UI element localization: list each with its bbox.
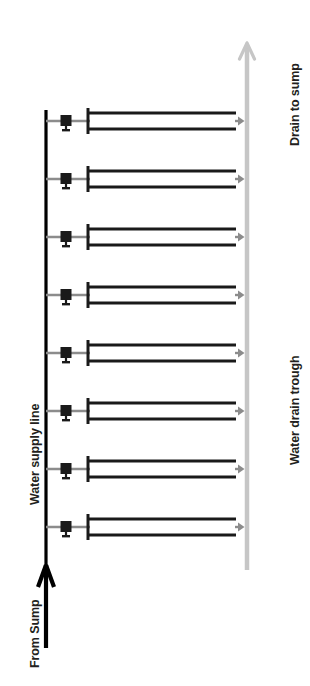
label-water-supply-line: Water supply line	[29, 404, 42, 505]
valve-body-2[interactable]	[61, 173, 72, 184]
piping-diagram-canvas	[0, 0, 310, 686]
branch-discharge-arrow-icon-6	[238, 407, 245, 416]
valve-body-3[interactable]	[61, 231, 72, 242]
branch-5	[46, 340, 245, 366]
branch-1	[46, 108, 245, 134]
branch-4	[46, 282, 245, 308]
branch-discharge-arrow-icon-8	[238, 523, 245, 532]
label-drain-to-sump: Drain to sump	[289, 63, 302, 146]
branch-2	[46, 166, 245, 192]
valve-body-5[interactable]	[61, 347, 72, 358]
piping-diagram: Drain to sump Water drain trough Water s…	[0, 0, 310, 686]
branch-6	[46, 398, 245, 424]
label-from-sump: From Sump	[29, 599, 42, 668]
valve-body-1[interactable]	[61, 115, 72, 126]
branch-discharge-arrow-icon-1	[238, 117, 245, 126]
branch-discharge-arrow-icon-3	[238, 233, 245, 242]
branch-discharge-arrow-icon-7	[238, 465, 245, 474]
valve-body-7[interactable]	[61, 463, 72, 474]
branch-discharge-arrow-icon-2	[238, 175, 245, 184]
branch-3	[46, 224, 245, 250]
valve-body-6[interactable]	[61, 405, 72, 416]
valve-body-8[interactable]	[61, 521, 72, 532]
label-water-drain-trough: Water drain trough	[289, 355, 302, 465]
branch-discharge-arrow-icon-5	[238, 349, 245, 358]
supply-line-group	[38, 110, 54, 648]
branches-group	[46, 108, 245, 540]
valve-body-4[interactable]	[61, 289, 72, 300]
branch-discharge-arrow-icon-4	[238, 291, 245, 300]
branch-8	[46, 514, 245, 540]
branch-7	[46, 456, 245, 482]
